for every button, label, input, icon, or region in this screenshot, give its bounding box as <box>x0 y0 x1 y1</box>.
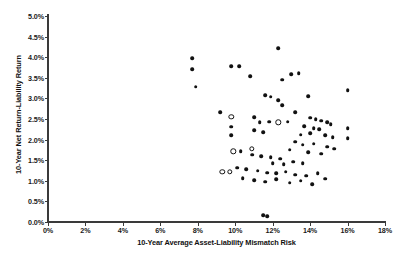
x-tick-label: 14% <box>303 226 317 235</box>
data-point <box>250 153 254 157</box>
data-point <box>320 119 324 123</box>
data-point <box>263 180 267 184</box>
y-tick-label: 5.0% <box>28 12 44 21</box>
data-point <box>346 88 350 92</box>
data-point <box>329 122 333 126</box>
data-point <box>316 172 320 176</box>
data-point <box>293 173 297 177</box>
x-tick-label: 12% <box>266 226 280 235</box>
y-tick <box>45 119 48 120</box>
data-point <box>267 120 271 124</box>
data-point <box>265 214 269 218</box>
data-point <box>230 64 234 68</box>
data-point <box>190 67 194 71</box>
x-tick-label: 4% <box>118 226 128 235</box>
y-tick-label: 3.0% <box>28 94 44 103</box>
data-point <box>284 170 288 174</box>
data-point <box>314 118 318 122</box>
data-point <box>265 171 269 175</box>
data-point <box>252 128 256 132</box>
data-point <box>252 178 256 182</box>
y-tick-label: 1.0% <box>28 176 44 185</box>
data-point <box>290 72 294 76</box>
data-point <box>282 163 286 167</box>
data-point <box>271 161 275 165</box>
data-point <box>308 116 312 120</box>
data-point <box>248 74 252 78</box>
y-tick <box>45 78 48 79</box>
y-tick <box>45 57 48 58</box>
data-point <box>306 94 310 98</box>
data-point <box>262 130 266 134</box>
data-point <box>312 126 316 130</box>
data-point <box>237 64 241 68</box>
data-point <box>323 177 327 181</box>
y-tick <box>45 222 48 223</box>
x-tick-label: 10% <box>228 226 242 235</box>
data-point <box>301 143 305 147</box>
data-point <box>310 182 314 186</box>
data-point <box>293 140 297 144</box>
data-point <box>275 177 279 181</box>
data-point <box>230 125 234 129</box>
data-point <box>276 98 280 102</box>
data-point <box>194 85 198 89</box>
y-tick <box>45 37 48 38</box>
data-point <box>288 181 292 185</box>
x-tick-label: 2% <box>80 226 90 235</box>
x-tick-label: 18% <box>378 226 392 235</box>
data-point <box>325 145 329 149</box>
y-tick-label: 1.5% <box>28 156 44 165</box>
data-point <box>346 126 350 130</box>
data-point <box>235 166 239 170</box>
x-tick-label: 16% <box>341 226 355 235</box>
y-tick-label: 4.5% <box>28 32 44 41</box>
data-point <box>278 157 282 161</box>
data-point <box>299 133 303 137</box>
data-point <box>241 177 245 181</box>
data-point <box>190 56 194 60</box>
data-point <box>280 78 284 82</box>
data-point <box>291 160 295 164</box>
data-point <box>333 147 337 151</box>
data-point <box>239 149 243 153</box>
data-point <box>275 172 279 176</box>
data-point <box>305 174 309 178</box>
data-point <box>318 128 322 132</box>
data-point <box>303 124 307 128</box>
data-point <box>297 71 301 75</box>
y-tick <box>45 181 48 182</box>
y-tick-label: 2.5% <box>28 115 44 124</box>
data-point <box>263 93 267 97</box>
data-point <box>346 137 350 141</box>
data-point <box>293 110 297 114</box>
data-point <box>256 169 260 173</box>
y-tick-label: 3.5% <box>28 73 44 82</box>
y-axis-title: 10-Year Net Return-Liability Return <box>14 35 23 195</box>
data-point <box>299 179 303 183</box>
y-tick <box>45 140 48 141</box>
data-point <box>245 167 249 171</box>
x-tick-label: 0% <box>43 226 53 235</box>
y-tick-label: 4.0% <box>28 53 44 62</box>
x-axis-title: 10-Year Average Asset-Liability Mismatch… <box>48 238 385 247</box>
data-point <box>331 135 335 139</box>
data-point <box>230 134 234 138</box>
data-point <box>308 132 312 136</box>
y-tick-label: 0.0% <box>28 218 44 227</box>
x-axis-line <box>47 221 386 223</box>
y-tick <box>45 201 48 202</box>
data-point <box>301 162 305 166</box>
data-point <box>218 110 222 114</box>
data-point <box>288 148 292 152</box>
data-point <box>260 154 264 158</box>
data-point <box>312 142 316 146</box>
scatter-chart: 0.0%0.5%1.0%1.5%2.0%2.5%3.0%3.5%4.0%4.5%… <box>0 0 399 257</box>
y-tick <box>45 16 48 17</box>
y-tick <box>45 98 48 99</box>
data-point <box>258 120 262 124</box>
y-tick-label: 2.0% <box>28 135 44 144</box>
x-tick-label: 8% <box>193 226 203 235</box>
data-point <box>286 120 290 124</box>
data-point <box>269 156 273 160</box>
